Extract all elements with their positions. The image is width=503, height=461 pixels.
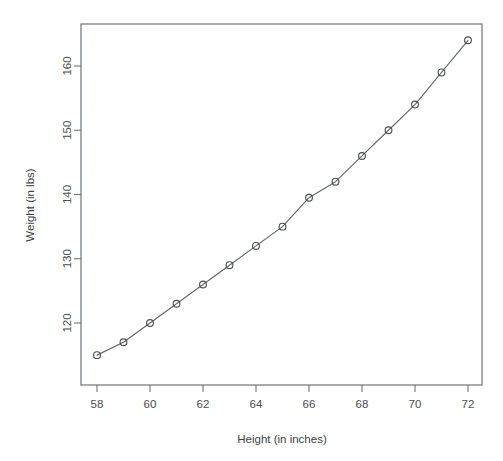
- x-tick-label: 62: [197, 398, 210, 410]
- y-tick-label: 150: [61, 121, 73, 140]
- y-tick-label: 130: [61, 249, 73, 268]
- y-tick-label: 120: [61, 313, 73, 332]
- x-tick-label: 70: [409, 398, 422, 410]
- x-tick-label: 60: [144, 398, 157, 410]
- chart-page: 5860626466687072 120130140150160 Height …: [0, 0, 503, 461]
- x-tick-label: 64: [250, 398, 263, 410]
- x-axis-label: Height (in inches): [237, 433, 327, 445]
- x-tick-label: 72: [462, 398, 475, 410]
- y-tick-label: 140: [61, 185, 73, 204]
- chart-background: [0, 0, 503, 461]
- x-tick-label: 58: [91, 398, 104, 410]
- x-tick-label: 68: [356, 398, 369, 410]
- y-tick-label: 160: [61, 56, 73, 75]
- height-weight-line-chart: 5860626466687072 120130140150160 Height …: [0, 0, 503, 461]
- y-axis-label: Weight (in lbs): [24, 168, 36, 241]
- x-tick-label: 66: [303, 398, 316, 410]
